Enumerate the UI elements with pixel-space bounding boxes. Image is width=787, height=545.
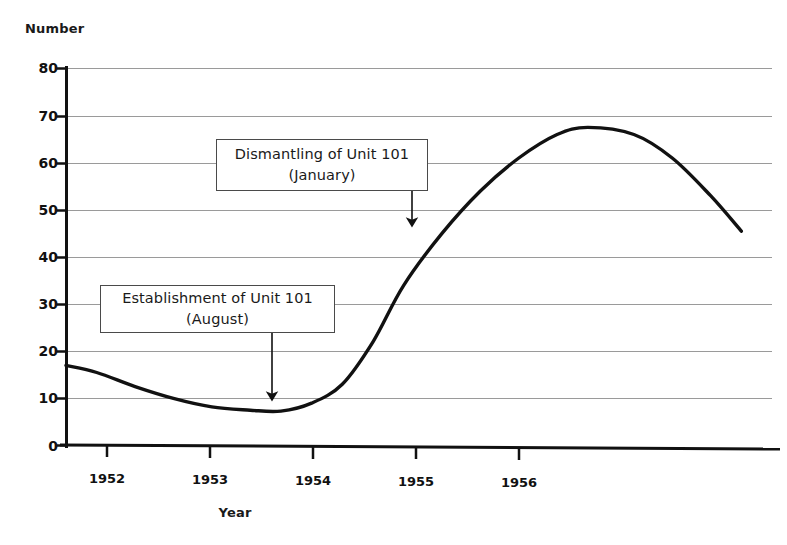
annotation-establishment-line1: Establishment of Unit 101	[122, 288, 313, 309]
line-chart: Number Year 80 70 60 50 40 30 20 10 0 19…	[0, 0, 787, 545]
annotation-dismantling-line1: Dismantling of Unit 101	[235, 144, 409, 165]
annotation-box-dismantling: Dismantling of Unit 101 (January)	[216, 139, 428, 191]
annotation-box-establishment: Establishment of Unit 101 (August)	[100, 285, 335, 333]
annotation-dismantling-line2: (January)	[288, 165, 355, 186]
chart-curve-layer	[0, 0, 787, 545]
annotation-establishment-line2: (August)	[186, 309, 249, 330]
